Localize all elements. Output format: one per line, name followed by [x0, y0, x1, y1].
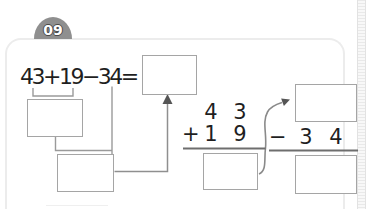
addend2-ones-digit: 9: [227, 123, 253, 145]
exercise-number: 09: [43, 22, 62, 39]
expression: 43+19−34=: [20, 64, 137, 89]
addition-addend2-row: 1 9: [198, 123, 253, 145]
answer-box-column-sum[interactable]: [203, 153, 258, 190]
subtraction-subtrahend-row: 3 4: [293, 126, 349, 148]
addition-operator: +: [182, 123, 200, 145]
answer-box-column-difference[interactable]: [295, 155, 357, 194]
subtraction-operator: −: [269, 126, 287, 148]
answer-box-column-minuend[interactable]: [295, 84, 357, 122]
page-edge-texture: [357, 0, 366, 209]
addend1-ones-digit: 3: [227, 101, 253, 123]
addition-addend1-row: 4 3: [198, 101, 253, 123]
answer-box-equals-result[interactable]: [142, 55, 197, 95]
subtrahend-tens-digit: 3: [293, 126, 319, 148]
addend2-tens-digit: 1: [198, 123, 224, 145]
exercise-number-badge: 09: [34, 17, 72, 39]
addend1-tens-digit: 4: [198, 101, 224, 123]
subtrahend-ones-digit: 4: [323, 126, 349, 148]
answer-box-partial-difference[interactable]: [57, 154, 114, 192]
answer-box-partial-sum[interactable]: [27, 99, 83, 137]
